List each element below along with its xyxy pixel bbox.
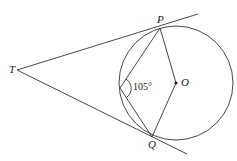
label-q: Q	[148, 139, 156, 150]
radius-op	[160, 28, 176, 83]
centre-dot	[174, 81, 177, 84]
radius-oq	[152, 83, 176, 137]
tangent-tp	[17, 14, 198, 70]
tangent-tq	[17, 70, 187, 154]
angle-label: 105°	[133, 82, 152, 92]
angle-arc	[126, 79, 131, 97]
diagram-canvas: T P O Q 105°	[0, 0, 237, 161]
label-t: T	[9, 64, 15, 75]
label-p: P	[157, 14, 164, 25]
geometry-figure	[0, 0, 237, 161]
chord-qr	[120, 88, 152, 137]
label-o: O	[181, 77, 189, 88]
